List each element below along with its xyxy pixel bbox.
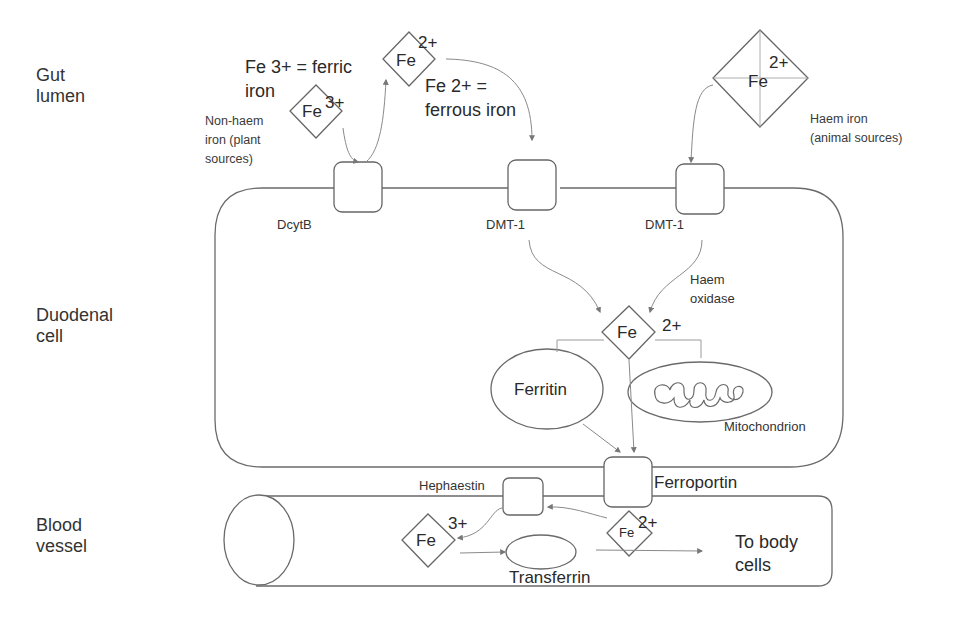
- fe3-blood-symbol: Fe: [416, 531, 436, 551]
- enzyme-line: Haem: [690, 270, 735, 289]
- fe2-lumen-symbol: Fe: [396, 51, 416, 71]
- arrow-fe-to-ferroportin: [629, 360, 634, 452]
- fe2-cell-charge: 2+: [662, 316, 681, 336]
- fe3-lumen-charge: 3+: [325, 93, 344, 113]
- definition-line: Fe 3+ = ferric: [245, 55, 352, 79]
- ferritin-label: Ferritin: [514, 380, 567, 400]
- definition-line: ferrous iron: [425, 98, 516, 122]
- region-label-duodenal-cell: Duodenal cell: [36, 305, 113, 346]
- fe3-blood-charge: 3+: [448, 514, 467, 534]
- dcytb-transporter: [334, 162, 382, 212]
- haem-source-label: Haem iron (animal sources): [810, 110, 902, 148]
- region-label-line: lumen: [36, 86, 85, 107]
- mitochondrion: [628, 362, 772, 422]
- region-label-blood-vessel: Blood vessel: [36, 515, 87, 556]
- source-line: Non-haem: [205, 112, 263, 131]
- fe2-lumen-charge: 2+: [418, 33, 437, 53]
- fe2-blood-charge: 2+: [638, 513, 657, 533]
- region-label-line: vessel: [36, 536, 87, 557]
- arrow-dmt1-to-fe: [529, 240, 600, 312]
- destination-line: To body: [735, 531, 798, 554]
- dcytb-label: DcytB: [277, 218, 312, 233]
- hephaestin-label: Hephaestin: [419, 479, 485, 494]
- transferrin-label: Transferrin: [509, 568, 591, 588]
- fe2-cell-symbol: Fe: [617, 323, 637, 343]
- enzyme-line: oxidase: [690, 289, 735, 308]
- dmt1-transporter-b: [676, 164, 724, 214]
- region-label-line: cell: [36, 326, 113, 347]
- hephaestin-protein: [503, 478, 543, 515]
- source-line: sources): [205, 150, 263, 169]
- ferroportin-transporter: [604, 457, 652, 507]
- transferrin: [506, 535, 576, 569]
- arrow-fe3-to-dcytb: [343, 128, 358, 162]
- destination-line: cells: [735, 554, 798, 577]
- region-label-gut-lumen: Gut lumen: [36, 65, 85, 106]
- region-label-line: Blood: [36, 515, 87, 536]
- dmt1-label-a: DMT-1: [486, 218, 525, 233]
- arrow-dcytb-to-fe2: [366, 80, 386, 162]
- ferrous-definition: Fe 2+ = ferrous iron: [425, 74, 516, 122]
- definition-line: Fe 2+ =: [425, 74, 516, 98]
- source-line: Haem iron: [810, 110, 902, 129]
- haem-fe-charge: 2+: [769, 53, 788, 73]
- destination-label: To body cells: [735, 531, 798, 577]
- source-line: iron (plant: [205, 131, 263, 150]
- arrow-fe2-to-hephaestin: [548, 507, 607, 518]
- fe3-lumen-symbol: Fe: [302, 102, 322, 122]
- non-haem-source-label: Non-haem iron (plant sources): [205, 112, 263, 169]
- haem-fe-symbol: Fe: [748, 72, 768, 92]
- region-label-line: Gut: [36, 65, 85, 86]
- dmt1-transporter-a: [508, 160, 556, 210]
- arrow-fe3-to-transferrin: [460, 552, 505, 553]
- haem-oxidase-label: Haem oxidase: [690, 270, 735, 308]
- fe2-blood-symbol: Fe: [619, 526, 634, 541]
- mitochondrion-label: Mitochondrion: [724, 420, 806, 435]
- arrow-haem-to-dmt1: [691, 85, 713, 162]
- arrow-transferrin-to-body: [596, 550, 702, 551]
- ferroportin-label: Ferroportin: [654, 473, 737, 493]
- source-line: (animal sources): [810, 129, 902, 148]
- arrow-ferritin-to-ferroportin: [583, 424, 620, 452]
- blood-vessel-opening: [224, 495, 294, 585]
- dmt1-label-b: DMT-1: [645, 218, 684, 233]
- region-label-line: Duodenal: [36, 305, 113, 326]
